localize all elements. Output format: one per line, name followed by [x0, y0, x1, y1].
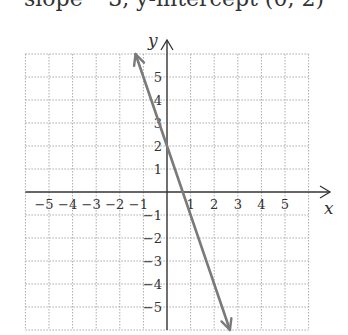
x-tick-label: −3 — [82, 197, 101, 212]
coordinate-plane: xy −5−4−3−2−112345−5−4−3−2−112345 — [0, 0, 348, 335]
y-tick-label: −5 — [143, 300, 162, 315]
x-axis-label: x — [324, 198, 334, 218]
x-tick-label: −4 — [58, 197, 77, 212]
y-tick-label: −3 — [143, 254, 162, 269]
x-tick-label: 2 — [210, 197, 218, 212]
y-tick-label: 4 — [154, 93, 162, 108]
x-tick-label: 4 — [257, 197, 265, 212]
y-tick-label: −4 — [143, 277, 162, 292]
x-tick-label: 5 — [281, 197, 289, 212]
y-tick-label: 1 — [154, 162, 162, 177]
x-tick-label: −5 — [34, 197, 53, 212]
y-axis-label: y — [147, 30, 158, 50]
y-tick-label: −2 — [143, 231, 162, 246]
y-tick-label: −1 — [143, 208, 162, 223]
x-tick-label: 3 — [234, 197, 242, 212]
y-tick-label: 2 — [154, 139, 162, 154]
y-tick-label: 5 — [154, 70, 162, 85]
x-tick-label: −2 — [105, 197, 124, 212]
